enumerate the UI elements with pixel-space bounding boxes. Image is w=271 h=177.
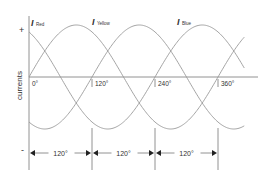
arrowhead-right — [212, 150, 217, 156]
series-label-yellow: IYellow — [92, 17, 111, 27]
x-tick-label: 120° — [95, 80, 109, 87]
y-negative-label: - — [21, 145, 24, 155]
y-axis-label: currents — [15, 71, 24, 100]
series-label-symbol: I — [31, 18, 34, 28]
series-label-symbol: I — [92, 17, 95, 27]
spacing-arrow: 120° — [30, 128, 92, 170]
series-label-red: IRed — [31, 18, 45, 28]
series-label-sub: Yellow — [97, 21, 111, 26]
arrowhead-left — [156, 150, 161, 156]
spacing-label: 120° — [53, 150, 68, 157]
arrowhead-right — [86, 150, 91, 156]
spacing-arrow: 120° — [156, 128, 218, 170]
series-label-sub: Blue — [182, 21, 192, 26]
spacing-label: 120° — [179, 150, 194, 157]
y-positive-label: + — [19, 25, 24, 35]
spacing-arrow: 120° — [93, 128, 155, 170]
x-tick-label: 360° — [221, 80, 235, 87]
x-tick-label: 240° — [158, 80, 172, 87]
series-label-blue: IBlue — [177, 17, 192, 27]
three-phase-diagram: + - currents 0°120°240°360° IRedIYellowI… — [0, 0, 271, 177]
arrowhead-left — [93, 150, 98, 156]
spacing-label: 120° — [116, 150, 131, 157]
chart-svg: + - currents 0°120°240°360° IRedIYellowI… — [0, 0, 271, 177]
x-tick-label: 0° — [32, 80, 39, 87]
series-label-sub: Red — [36, 22, 45, 27]
arrowhead-left — [30, 150, 35, 156]
arrowhead-right — [149, 150, 154, 156]
series-label-symbol: I — [177, 17, 180, 27]
